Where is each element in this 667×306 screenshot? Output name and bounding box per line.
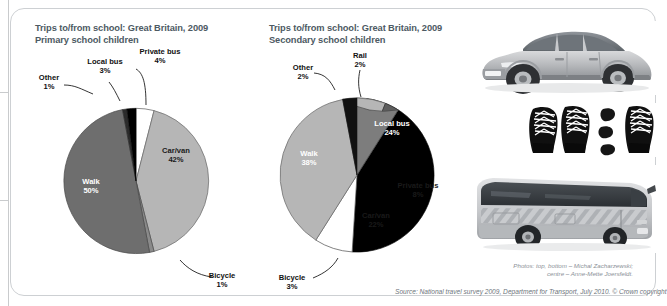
figure-card: Trips to/from school: Great Britain, 200… [10, 8, 656, 296]
label-other-primary-name: Other [29, 73, 69, 82]
leader-local-bus-primary [107, 81, 125, 103]
label-local-bus-secondary-value: 24% [363, 128, 421, 137]
label-car-van-primary-name: Car/van [151, 146, 201, 155]
boot-sole-middle [561, 106, 589, 153]
source-note: Source: National travel survey 2009, Dep… [395, 288, 667, 295]
label-other-primary-value: 1% [29, 82, 69, 91]
label-private-bus-primary-name: Private bus [129, 47, 191, 56]
label-car-van-primary-value: 42% [151, 155, 201, 164]
primary-chart-title-line1: Trips to/from school: Great Britain, 200… [35, 23, 208, 35]
label-private-bus-secondary: Private bus 8% [387, 181, 449, 200]
leader-rail-secondary [356, 69, 368, 99]
label-local-bus-secondary: Local bus 24% [363, 119, 421, 138]
label-local-bus-primary: Local bus 3% [77, 57, 133, 76]
label-walk-secondary: Walk 38% [287, 149, 331, 168]
label-bicycle-primary-name: Bicycle [199, 271, 245, 280]
secondary-chart-title-line1: Trips to/from school: Great Britain, 200… [269, 23, 442, 35]
label-bicycle-secondary-name: Bicycle [269, 273, 315, 282]
label-private-bus-primary: Private bus 4% [129, 47, 191, 66]
secondary-chart-title-line2: Secondary school children [269, 35, 442, 47]
boot-sole-right [625, 106, 653, 153]
label-local-bus-primary-name: Local bus [77, 57, 133, 66]
secondary-chart-title: Trips to/from school: Great Britain, 200… [269, 23, 442, 46]
label-walk-primary: Walk 50% [69, 177, 113, 196]
left-edge-rule [8, 0, 9, 306]
label-private-bus-primary-value: 4% [129, 56, 191, 65]
leader-bicycle-secondary [311, 257, 339, 281]
label-local-bus-secondary-name: Local bus [363, 119, 421, 128]
label-other-secondary-name: Other [283, 63, 323, 72]
footprints-photo [519, 103, 661, 157]
car-photo [471, 21, 661, 95]
label-car-van-secondary: Car/van 22% [351, 211, 401, 230]
photo-credit: Photos: top, bottom – Michal Zacharzewsk… [421, 262, 633, 279]
label-other-secondary-value: 2% [283, 72, 323, 81]
secondary-pie-chart [275, 93, 439, 257]
label-private-bus-secondary-value: 8% [387, 190, 449, 199]
label-private-bus-secondary-name: Private bus [387, 181, 449, 190]
photo-credit-line1: Photos: top, bottom – Michal Zacharzewsk… [421, 262, 633, 270]
label-rail-secondary-name: Rail [343, 51, 377, 60]
label-local-bus-primary-value: 3% [77, 66, 133, 75]
label-car-van-secondary-value: 22% [351, 220, 401, 229]
label-car-van-primary: Car/van 42% [151, 146, 201, 165]
primary-chart-title: Trips to/from school: Great Britain, 200… [35, 23, 208, 46]
leader-private-bus-primary [135, 67, 153, 107]
label-other-primary: Other 1% [29, 73, 69, 92]
bus-photo [471, 165, 661, 253]
label-walk-secondary-value: 38% [287, 158, 331, 167]
label-walk-primary-name: Walk [69, 177, 113, 186]
tread-marks [598, 108, 615, 155]
label-other-secondary: Other 2% [283, 63, 323, 82]
label-rail-secondary-value: 2% [343, 60, 377, 69]
label-car-van-secondary-name: Car/van [351, 211, 401, 220]
primary-chart-title-line2: Primary school children [35, 35, 208, 47]
photo-credit-line2: centre – Anne-Mette Joersfeldt. [421, 270, 633, 278]
label-walk-secondary-name: Walk [287, 149, 331, 158]
label-bicycle-secondary-value: 3% [269, 282, 315, 291]
label-bicycle-primary-value: 1% [199, 280, 245, 289]
boot-sole-left [529, 107, 557, 153]
label-rail-secondary: Rail 2% [343, 51, 377, 70]
left-edge-tick-bottom [0, 200, 9, 201]
left-edge-tick-top [0, 92, 9, 93]
label-walk-primary-value: 50% [69, 186, 113, 195]
label-bicycle-primary: Bicycle 1% [199, 271, 245, 290]
label-bicycle-secondary: Bicycle 3% [269, 273, 315, 292]
